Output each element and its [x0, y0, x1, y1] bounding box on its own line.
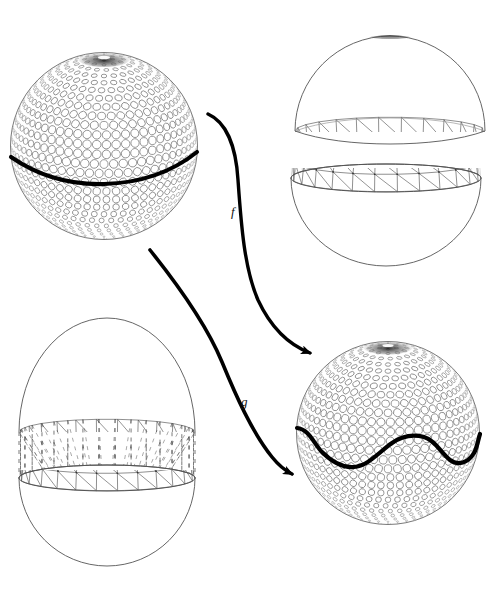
- arrow-f-path: [208, 114, 310, 353]
- bowl-outline: [291, 178, 481, 266]
- packed-sphere-with-wavy-curve: [297, 340, 481, 525]
- capsule-dome-outline: [19, 318, 195, 432]
- arrow-g-label: g: [241, 394, 248, 409]
- packed-sphere-with-equator: [11, 51, 198, 240]
- arrow-f-label: f: [231, 204, 237, 219]
- target-pole-highlight: [383, 344, 394, 347]
- dome-rim-front: [295, 131, 485, 144]
- arrow-f: f: [208, 114, 310, 353]
- stretched-capsule-with-dashed-band: [19, 315, 195, 566]
- diagram-canvas: f g: [0, 0, 491, 592]
- north-pole-highlight: [98, 56, 110, 59]
- figure-root: f g: [0, 0, 491, 592]
- dome-pole-shade: [350, 17, 430, 39]
